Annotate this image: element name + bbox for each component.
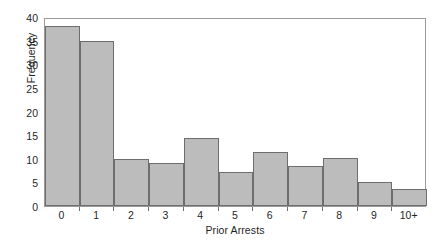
x-axis-tick-label: 6: [267, 210, 273, 221]
bar: [114, 159, 149, 206]
x-axis-tick-mark: [357, 207, 358, 211]
x-axis-tick-label: 8: [336, 210, 342, 221]
y-axis-tick-label: 35: [14, 37, 38, 47]
y-axis-tick-label: 15: [14, 131, 38, 141]
bar: [45, 26, 80, 206]
x-axis-tick-label: 7: [302, 210, 308, 221]
bar-series: [45, 19, 425, 206]
x-axis-tick-mark: [391, 207, 392, 211]
histogram-figure: Frequency 0510152025303540 012345678910+…: [0, 0, 443, 245]
y-axis-tick-labels: 0510152025303540: [14, 0, 38, 245]
y-axis-tick-label: 30: [14, 60, 38, 70]
bar: [219, 172, 254, 206]
x-axis-tick-label: 2: [128, 210, 134, 221]
bar: [323, 158, 358, 206]
bar: [149, 163, 184, 206]
x-axis-tick-mark: [113, 207, 114, 211]
x-axis-tick-mark: [322, 207, 323, 211]
bar: [184, 138, 219, 206]
y-axis-tick-label: 10: [14, 155, 38, 165]
bar: [288, 166, 323, 206]
bar: [358, 182, 393, 206]
x-axis-tick-label: 4: [197, 210, 203, 221]
x-axis-title: Prior Arrests: [44, 224, 426, 236]
x-axis-tick-mark: [148, 207, 149, 211]
x-axis-tick-label: 10+: [400, 210, 418, 221]
plot-area: [44, 18, 426, 207]
x-axis-tick-mark: [218, 207, 219, 211]
bar: [80, 41, 115, 206]
x-axis-tick-label: 1: [93, 210, 99, 221]
y-axis-tick-label: 5: [14, 178, 38, 188]
x-axis-tick-label: 3: [163, 210, 169, 221]
y-axis-tick-label: 0: [14, 202, 38, 212]
x-axis-tick-mark: [252, 207, 253, 211]
bar: [392, 189, 427, 206]
x-axis-tick-mark: [79, 207, 80, 211]
x-axis-tick-mark: [287, 207, 288, 211]
x-axis-tick-mark: [183, 207, 184, 211]
bar: [253, 152, 288, 206]
y-axis-tick-label: 25: [14, 84, 38, 94]
y-axis-tick-label: 20: [14, 108, 38, 118]
y-axis-tick-label: 40: [14, 13, 38, 23]
x-axis-tick-label: 5: [232, 210, 238, 221]
x-axis-tick-label: 9: [371, 210, 377, 221]
x-axis-tick-label: 0: [58, 210, 64, 221]
